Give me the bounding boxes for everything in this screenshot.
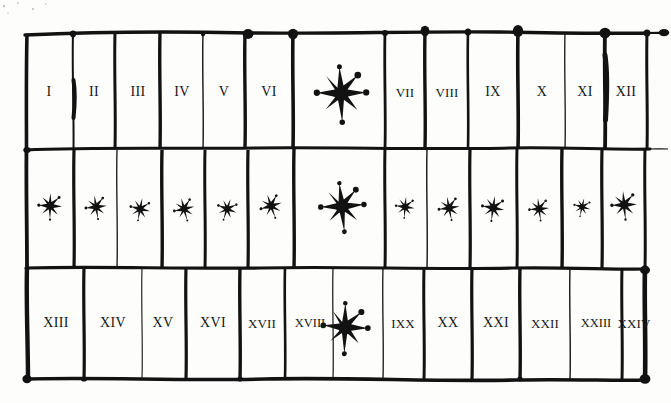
- grid-line-vertical-top-4: [203, 33, 204, 149]
- grid-line-vertical-bot-7: [383, 268, 384, 379]
- ink-star-mark: [609, 190, 638, 221]
- grid-line-vertical-top-11: [565, 32, 566, 149]
- cell-label-xxiii: XXIII: [581, 317, 612, 330]
- cell-label-viii: VIII: [436, 86, 459, 99]
- ink-star-mark: [213, 195, 240, 223]
- ink-star-mark: [37, 193, 63, 221]
- grid-line-horizontal-2: [26, 267, 647, 269]
- ink-star-mark: [571, 196, 593, 219]
- cell-label-ixx: IXX: [391, 317, 414, 330]
- cell-label-x: X: [537, 85, 548, 99]
- grid-line-vertical-mid-5: [248, 150, 249, 268]
- grid-line-vertical-bot-2: [142, 268, 143, 379]
- grid-line-vertical-mid-1: [74, 150, 75, 268]
- grid-line-horizontal-bottom: [28, 378, 646, 380]
- grid-drawing-svg: [0, 0, 671, 403]
- cell-label-xv: XV: [152, 316, 173, 330]
- grid-line-vertical-top-8: [425, 31, 426, 148]
- cell-label-xviii: XVIII: [295, 317, 326, 330]
- grid-line-vertical-bot-8: [424, 268, 425, 379]
- grid-line-vertical-top-0: [26, 34, 27, 150]
- grid-line-vertical-mid-2: [117, 150, 118, 268]
- grid-line-vertical-top-2: [115, 33, 116, 149]
- hand-drawn-grid-figure: I II III IV V VI VII VIII IX X XI XII XI…: [0, 0, 671, 403]
- grid-line-vertical-mid-7: [385, 148, 386, 268]
- grid-line-vertical-top-3: [160, 32, 161, 149]
- grid-line-vertical-bot-11: [570, 268, 571, 379]
- ink-star-mark: [479, 194, 506, 224]
- grid-line-vertical-mid-11: [562, 148, 563, 268]
- cell-label-ii: II: [89, 85, 99, 99]
- cell-label-xxii: XXII: [531, 317, 559, 330]
- cell-label-xii: XII: [616, 85, 637, 99]
- ink-star-mark: [436, 195, 462, 223]
- ink-star-mark: [527, 197, 550, 222]
- grid-line-vertical-top-10: [518, 31, 519, 148]
- cell-label-xx: XX: [437, 316, 458, 330]
- cell-label-xiv: XIV: [100, 316, 126, 330]
- grid-line-vertical-bot-3: [186, 268, 187, 379]
- ink-star-mark: [256, 191, 286, 222]
- cell-label-vi: VI: [261, 85, 277, 99]
- grid-line-vertical-bot-10: [520, 268, 521, 379]
- grid-line-vertical-top-9: [468, 31, 469, 148]
- grid-line-vertical-bot-6: [333, 268, 334, 379]
- cell-label-iv: IV: [174, 85, 190, 99]
- ink-star-mark: [394, 196, 416, 220]
- cell-label-ix: IX: [485, 85, 501, 99]
- grid-line-vertical-mid-3: [162, 150, 163, 268]
- cell-label-xi: XI: [577, 85, 593, 99]
- grid-line-vertical-top-13: [647, 32, 648, 150]
- grid-line-vertical-bot-0: [27, 268, 28, 379]
- cell-label-xvi: XVI: [200, 316, 226, 330]
- ink-star-mark: [127, 196, 152, 223]
- grid-line-vertical-mid-0: [26, 150, 27, 268]
- cell-label-xvii: XVII: [248, 317, 276, 330]
- grid-line-vertical-bot-1: [84, 268, 85, 379]
- grid-line-vertical-top-6: [293, 32, 294, 148]
- cell-label-iii: III: [130, 85, 145, 99]
- grid-line-vertical-mid-9: [470, 149, 471, 268]
- grid-line-vertical-bot-9: [472, 268, 473, 379]
- cell-label-i: I: [46, 85, 51, 99]
- grid-line-vertical-mid-8: [427, 149, 428, 268]
- ink-star-mark: [314, 64, 370, 125]
- grid-line-vertical-mid-10: [517, 148, 518, 268]
- grid-line-vertical-mid-6: [294, 149, 295, 268]
- grid-line-horizontal-top: [25, 32, 648, 35]
- cell-label-xxi: XXI: [483, 316, 509, 330]
- grid-line-vertical-bot-4: [240, 268, 241, 379]
- grid-line-vertical-top-7: [385, 32, 386, 148]
- ink-star-mark: [170, 196, 197, 225]
- cell-label-vii: VII: [396, 86, 414, 99]
- grid-line-vertical-mid-4: [205, 150, 206, 268]
- cell-label-xxiv: XXIV: [618, 317, 651, 330]
- grid-line-horizontal-1: [25, 148, 650, 150]
- grid-line-vertical-bot-5: [285, 268, 286, 379]
- grid-line-vertical-mid-12: [602, 149, 603, 268]
- cell-label-xiii: XIII: [43, 316, 69, 330]
- ink-star-mark: [83, 194, 109, 222]
- grid-line-vertical-top-5: [245, 33, 246, 148]
- ink-star-mark: [318, 299, 372, 357]
- ink-star-mark: [317, 180, 368, 236]
- cell-label-v: V: [219, 85, 230, 99]
- grid-line-vertical-mid-13: [645, 149, 646, 269]
